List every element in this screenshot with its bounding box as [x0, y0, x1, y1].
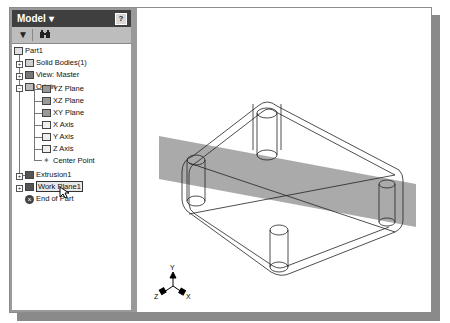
plane-icon [42, 109, 51, 117]
axis-triad [159, 272, 185, 295]
tree-item-yz-plane[interactable]: YZ Plane [42, 84, 84, 94]
help-button[interactable]: ? [115, 13, 127, 25]
tree-connector [34, 125, 42, 126]
work-plane-icon [25, 183, 34, 191]
model-browser-panel: Model ▾ ? ▼ Part1 [10, 8, 133, 312]
toolbar-separator [32, 29, 33, 41]
find-binoculars-icon[interactable] [38, 29, 52, 41]
tree-item-view-master[interactable]: View: Master [25, 70, 79, 80]
tree-connector [34, 149, 42, 150]
browser-header: Model ▾ ? [12, 10, 131, 27]
tree-item-z-axis[interactable]: Z Axis [42, 144, 73, 154]
tree-item-x-axis[interactable]: X Axis [42, 120, 74, 130]
plane-icon [42, 97, 51, 105]
browser-title-dropdown[interactable]: Model ▾ [17, 13, 54, 24]
plane-icon [42, 85, 51, 93]
tree-connector [34, 101, 42, 102]
expand-toggle[interactable]: + [16, 73, 23, 80]
tree-connector [34, 113, 42, 114]
collapse-toggle[interactable]: − [16, 85, 23, 92]
view-icon [25, 71, 34, 79]
graphics-viewport[interactable]: Y Z X [137, 8, 431, 312]
browser-toolbar: ▼ [12, 27, 131, 44]
tree-item-part1[interactable]: Part1 [14, 46, 43, 56]
expand-toggle[interactable]: + [16, 173, 23, 180]
end-of-part-icon: × [25, 195, 34, 204]
triad-z-label: Z [154, 293, 159, 300]
axis-icon [42, 121, 51, 129]
point-icon: ✦ [42, 156, 51, 166]
axis-icon [42, 133, 51, 141]
chevron-down-icon: ▾ [49, 13, 54, 24]
folder-icon [25, 83, 34, 91]
tree-item-xy-plane[interactable]: XY Plane [42, 108, 84, 118]
tree-item-extrusion1[interactable]: Extrusion1 [25, 170, 71, 180]
expand-toggle[interactable]: + [16, 185, 23, 192]
part-icon [14, 47, 23, 55]
tree-connector [34, 137, 42, 138]
mouse-cursor-icon [58, 186, 72, 200]
tree-connector [34, 160, 42, 161]
tree-item-y-axis[interactable]: Y Axis [42, 132, 74, 142]
application-frame: Model ▾ ? ▼ Part1 [9, 7, 432, 313]
triad-y-label: Y [170, 264, 175, 271]
browser-title: Model [17, 13, 46, 24]
expand-toggle[interactable]: + [16, 61, 23, 68]
tree-item-solid-bodies[interactable]: Solid Bodies(1) [25, 58, 87, 68]
tree-item-work-plane1[interactable]: Work Plane1 [25, 182, 83, 192]
3d-model-view: Y Z X [137, 8, 431, 312]
tree-item-xz-plane[interactable]: XZ Plane [42, 96, 84, 106]
model-tree: Part1 + Solid Bodies(1) + View: Master −… [12, 44, 131, 310]
axis-icon [42, 145, 51, 153]
filter-icon[interactable]: ▼ [16, 29, 30, 41]
extrusion-icon [25, 171, 34, 179]
triad-x-label: X [186, 293, 191, 300]
solid-bodies-icon [25, 59, 34, 67]
tree-item-center-point[interactable]: ✦Center Point [42, 156, 95, 166]
work-plane [159, 136, 416, 227]
